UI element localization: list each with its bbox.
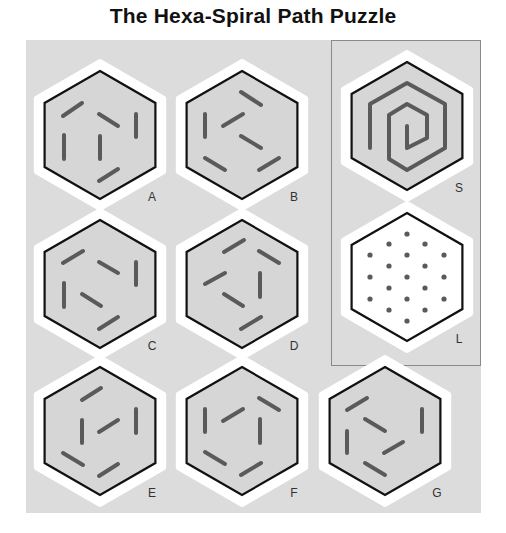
hex-label-g: G [432,486,441,500]
hex-label-a: A [148,190,156,204]
hex-label-d: D [290,339,299,353]
lattice-dot [422,241,427,246]
lattice-dot [404,318,409,323]
hex-label-b: B [290,190,298,204]
lattice-dot [367,296,372,301]
lattice-dot [404,296,409,301]
lattice-dot [404,231,409,236]
hex-label-s: S [455,181,463,195]
lattice-dot [367,252,372,257]
lattice-dot [404,252,409,257]
lattice-dot [441,252,446,257]
hex-label-l: L [456,332,463,346]
lattice-dot [441,296,446,301]
puzzle-board: ABCDEFGSL [0,0,506,533]
lattice-dot [386,263,391,268]
hex-tiles: ABCDEFGSL [45,62,463,500]
lattice-dot [386,241,391,246]
hex-label-e: E [148,486,156,500]
lattice-dot [367,274,372,279]
lattice-dot [441,274,446,279]
hex-label-c: C [148,339,157,353]
lattice-dot [404,274,409,279]
lattice-dot [386,307,391,312]
lattice-dot [422,263,427,268]
hex-label-f: F [290,486,297,500]
lattice-dot [422,307,427,312]
lattice-dot [422,285,427,290]
lattice-dot [386,285,391,290]
